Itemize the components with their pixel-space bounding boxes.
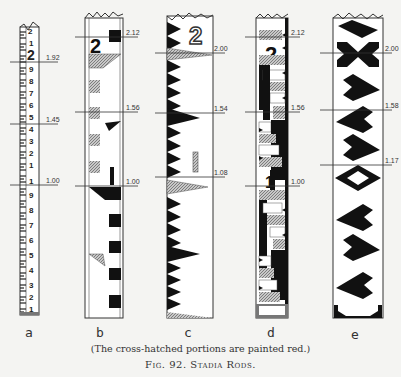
svg-text:7: 7	[29, 221, 34, 230]
svg-text:5: 5	[29, 251, 34, 260]
rod-b-label: b	[96, 325, 104, 340]
stadia-rods-figure: 21 2 987 654 321 1 987 654 321 1.92 1.45…	[0, 0, 401, 377]
svg-text:6: 6	[29, 236, 34, 245]
svg-text:2.12: 2.12	[126, 29, 140, 36]
rod-e-label: e	[351, 327, 359, 342]
svg-text:2: 2	[90, 35, 101, 57]
svg-text:2: 2	[27, 47, 35, 63]
svg-text:2: 2	[29, 149, 34, 158]
svg-text:1.92: 1.92	[46, 54, 60, 61]
svg-text:2: 2	[29, 293, 34, 302]
svg-text:2.00: 2.00	[214, 45, 228, 52]
svg-text:1.54: 1.54	[214, 105, 228, 112]
svg-text:3: 3	[29, 281, 34, 290]
rod-a: 21 2 987 654 321 1 987 654 321 1.92 1.45…	[10, 22, 60, 315]
svg-text:1: 1	[265, 174, 274, 191]
svg-text:2.00: 2.00	[385, 45, 399, 52]
rod-c-label: c	[184, 325, 192, 340]
svg-text:6: 6	[29, 101, 34, 110]
figure-title: Fig. 92. Stadia Rods.	[0, 359, 401, 370]
svg-text:1.00: 1.00	[291, 178, 305, 185]
svg-text:1.08: 1.08	[214, 169, 228, 176]
svg-text:9: 9	[29, 191, 34, 200]
svg-text:1: 1	[29, 161, 34, 170]
svg-text:9: 9	[29, 65, 34, 74]
svg-text:1.00: 1.00	[46, 177, 60, 184]
rod-a-label: a	[25, 325, 33, 340]
rod-b: 2 2.12 1.56 1.00	[75, 12, 140, 318]
svg-text:1.17: 1.17	[385, 157, 399, 164]
svg-text:1.45: 1.45	[46, 116, 60, 123]
rod-d-label: d	[267, 325, 275, 340]
svg-text:8: 8	[29, 77, 34, 86]
svg-text:5: 5	[29, 113, 34, 122]
rod-e: 2.00 1.58 1.17	[320, 13, 399, 318]
svg-text:1.56: 1.56	[291, 104, 305, 111]
rod-d: 2 1	[245, 14, 305, 318]
svg-text:1.58: 1.58	[385, 102, 399, 109]
svg-text:4: 4	[29, 125, 34, 134]
svg-text:2.12: 2.12	[291, 29, 305, 36]
svg-text:8: 8	[29, 206, 34, 215]
figure-caption: (The cross-hatched portions are painted …	[0, 343, 401, 354]
svg-text:1.00: 1.00	[126, 178, 140, 185]
svg-text:2: 2	[189, 22, 202, 49]
svg-text:3: 3	[29, 137, 34, 146]
rod-c: 2 2.0	[155, 13, 228, 318]
svg-text:2: 2	[28, 27, 33, 36]
svg-text:1.56: 1.56	[126, 104, 140, 111]
svg-text:4: 4	[29, 266, 34, 275]
svg-text:7: 7	[29, 89, 34, 98]
